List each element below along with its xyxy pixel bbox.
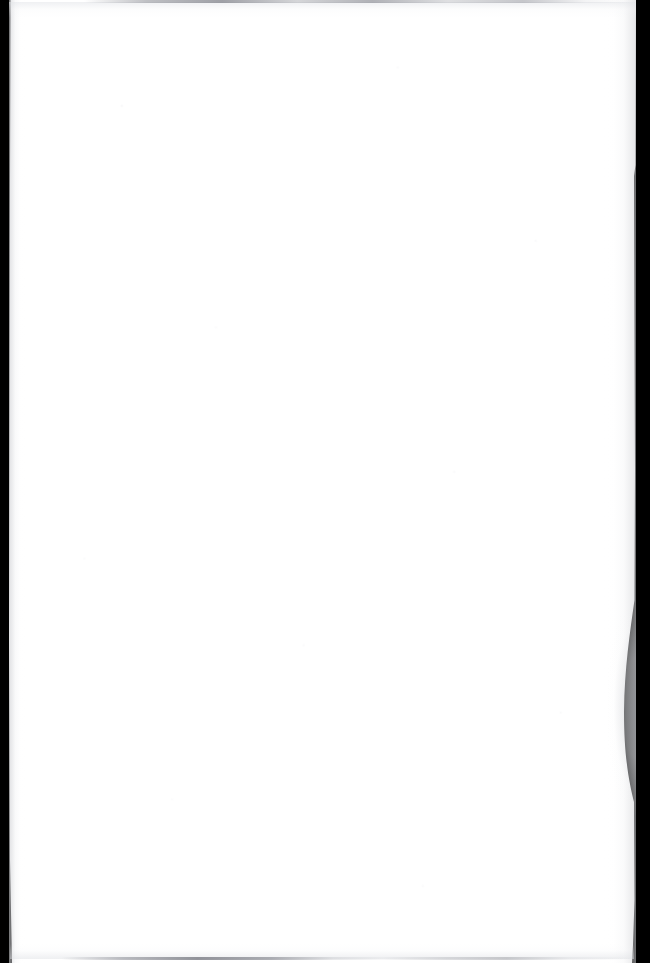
scanned-page-canvas: [0, 0, 650, 963]
page-text-content: [9, 0, 636, 963]
